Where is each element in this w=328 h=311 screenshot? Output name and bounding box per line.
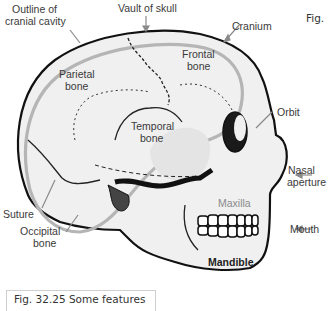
label-nasal-2: aperture	[287, 176, 326, 188]
label-parietal-1: Parietal	[59, 68, 95, 80]
label-cranium: Cranium	[232, 20, 272, 32]
label-outline-cranial-cavity-1: Outline of	[12, 3, 57, 15]
label-maxilla: Maxilla	[218, 197, 251, 209]
label-nasal-1: Nasal	[288, 164, 315, 176]
label-parietal-2: bone	[65, 80, 88, 92]
label-outline-cranial-cavity-2: cranial cavity	[5, 15, 66, 27]
label-frontal-1: Frontal	[182, 48, 215, 60]
label-temporal-2: bone	[140, 132, 163, 144]
label-frontal-2: bone	[187, 60, 210, 72]
label-mouth: Mouth	[290, 223, 319, 235]
figure-caption: Fig. 32.25 Some features	[14, 293, 145, 305]
label-mandible: Mandible	[208, 256, 254, 268]
label-occipital-1: Occipital	[20, 225, 60, 237]
label-vault-of-skull: Vault of skull	[118, 2, 177, 14]
label-orbit: Orbit	[277, 106, 300, 118]
label-occipital-2: bone	[33, 237, 56, 249]
figure-tag: Fig.	[306, 12, 324, 24]
label-suture: Suture	[3, 208, 34, 220]
label-temporal-1: Temporal	[131, 120, 174, 132]
